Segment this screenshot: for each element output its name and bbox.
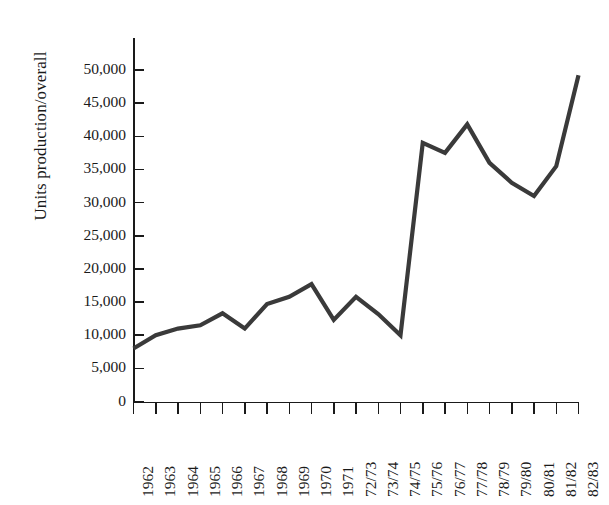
y-tick-15000 (133, 301, 144, 303)
x-tick-81-82 (556, 403, 558, 414)
x-tick-label: 81/82 (562, 462, 580, 497)
x-tick-label: 1966 (228, 466, 246, 497)
x-tick-73-74 (378, 403, 380, 414)
x-tick-1969 (289, 403, 291, 414)
y-tick-label-wrap: 40,000 (48, 136, 126, 137)
y-tick-40000 (133, 136, 144, 138)
x-tick-label: 76/77 (451, 462, 469, 497)
y-tick-label: 10,000 (54, 325, 126, 343)
y-tick-20000 (133, 268, 144, 270)
x-tick-label: 78/79 (495, 462, 513, 497)
y-tick-label-wrap: 0 (48, 402, 126, 403)
x-tick-label: 1965 (206, 466, 224, 497)
y-tick-label: 25,000 (54, 226, 126, 244)
y-tick-label-wrap: 5,000 (48, 368, 126, 369)
x-tick-label: 74/75 (406, 462, 424, 497)
y-tick-25000 (133, 235, 144, 237)
y-tick-label: 35,000 (54, 159, 126, 177)
x-tick-76-77 (444, 403, 446, 414)
y-tick-label-wrap: 50,000 (48, 70, 126, 71)
x-tick-label: 1967 (250, 466, 268, 497)
x-tick-label: 1964 (184, 466, 202, 497)
clipped-caption-text (150, 0, 470, 5)
x-tick-label: 72/73 (362, 462, 380, 497)
y-axis-line (133, 38, 135, 403)
y-tick-label: 15,000 (54, 292, 126, 310)
y-tick-label-wrap: 35,000 (48, 169, 126, 170)
y-tick-label: 30,000 (54, 193, 126, 211)
x-tick-1962 (133, 403, 135, 414)
y-tick-10000 (133, 334, 144, 336)
y-tick-35000 (133, 169, 144, 171)
x-tick-80-81 (533, 403, 535, 414)
x-tick-label: 77/78 (473, 462, 491, 497)
y-tick-45000 (133, 102, 144, 104)
x-tick-77-78 (467, 403, 469, 414)
x-tick-1968 (266, 403, 268, 414)
y-tick-label-wrap: 30,000 (48, 203, 126, 204)
y-tick-50000 (133, 69, 144, 71)
x-tick-label: 1963 (161, 466, 179, 497)
y-tick-label-wrap: 45,000 (48, 103, 126, 104)
y-tick-label: 50,000 (54, 60, 126, 78)
x-tick-1965 (200, 403, 202, 414)
x-tick-1967 (244, 403, 246, 414)
x-tick-label: 1970 (317, 466, 335, 497)
x-tick-label: 1969 (295, 466, 313, 497)
x-tick-label: 1971 (339, 466, 357, 497)
x-tick-1971 (333, 403, 335, 414)
y-tick-label-wrap: 15,000 (48, 302, 126, 303)
y-tick-label-wrap: 25,000 (48, 236, 126, 237)
x-tick-label: 75/76 (428, 462, 446, 497)
x-tick-label: 1962 (139, 466, 157, 497)
y-tick-0 (133, 401, 144, 403)
y-tick-label-wrap: 10,000 (48, 335, 126, 336)
x-tick-1963 (155, 403, 157, 414)
x-tick-79-80 (511, 403, 513, 414)
x-tick-1964 (177, 403, 179, 414)
y-tick-label: 5,000 (54, 358, 126, 376)
y-tick-label: 40,000 (54, 126, 126, 144)
x-tick-label: 80/81 (540, 462, 558, 497)
x-tick-1970 (311, 403, 313, 414)
chart-container: Units production/overall 05,00010,00015,… (0, 0, 609, 505)
x-tick-label: 73/74 (384, 462, 402, 497)
x-tick-74-75 (400, 403, 402, 414)
y-tick-5000 (133, 368, 144, 370)
x-tick-82-83 (578, 403, 580, 414)
y-tick-label: 0 (54, 392, 126, 410)
x-tick-72-73 (355, 403, 357, 414)
x-tick-label: 82/83 (584, 462, 602, 497)
x-tick-78-79 (489, 403, 491, 414)
y-tick-label: 45,000 (54, 93, 126, 111)
x-tick-label: 79/80 (517, 462, 535, 497)
y-tick-30000 (133, 202, 144, 204)
x-tick-label: 1968 (273, 466, 291, 497)
x-tick-1966 (222, 403, 224, 414)
x-tick-75-76 (422, 403, 424, 414)
y-tick-label: 20,000 (54, 259, 126, 277)
y-tick-label-wrap: 20,000 (48, 269, 126, 270)
